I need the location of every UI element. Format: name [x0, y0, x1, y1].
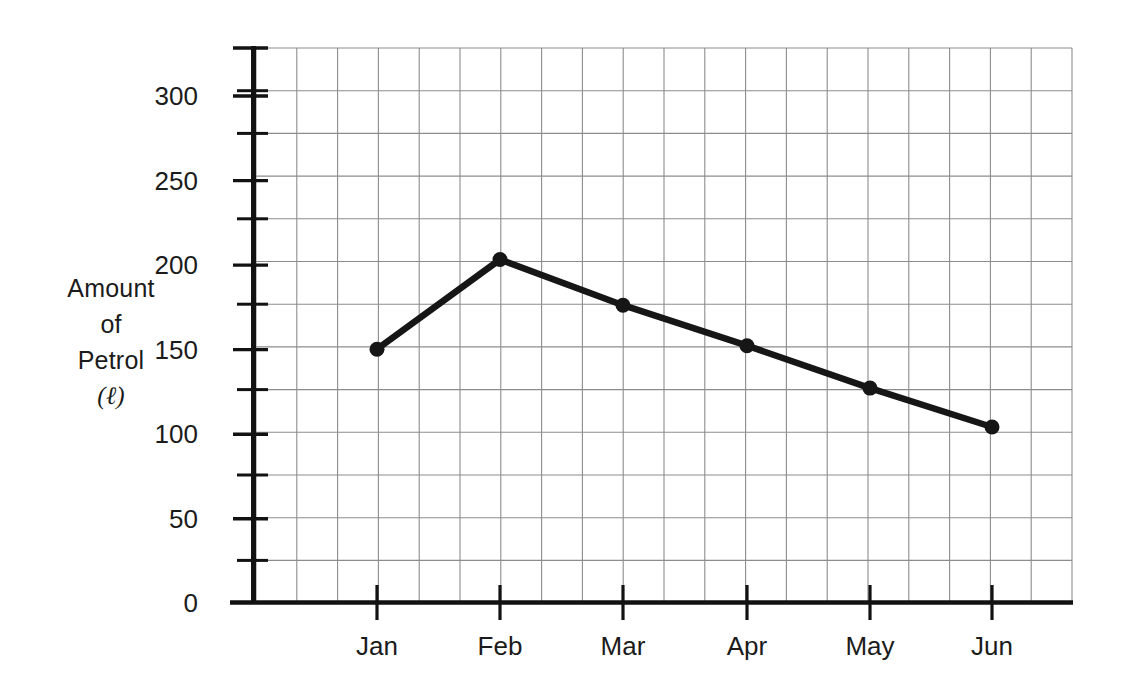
y-axis-ticks — [233, 48, 268, 560]
data-markers — [370, 252, 1000, 435]
data-line-amount-of-petrol — [377, 260, 992, 428]
axis-spines — [230, 46, 1073, 604]
data-point-may — [863, 381, 878, 396]
grid-lines — [256, 48, 1072, 603]
grid-vertical — [256, 48, 1072, 603]
data-point-feb — [493, 252, 508, 267]
line-chart-figure: Amount of Petrol (ℓ) 300 250 200 150 100… — [0, 0, 1134, 690]
data-point-mar — [616, 298, 631, 313]
data-point-jun — [985, 420, 1000, 435]
data-point-apr — [740, 338, 755, 353]
plot-area — [0, 0, 1134, 690]
data-point-jan — [370, 342, 385, 357]
